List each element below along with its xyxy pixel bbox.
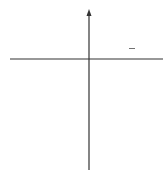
parabola-chart	[0, 0, 163, 173]
y-axis-arrow-icon	[87, 9, 92, 16]
axes	[10, 9, 163, 170]
